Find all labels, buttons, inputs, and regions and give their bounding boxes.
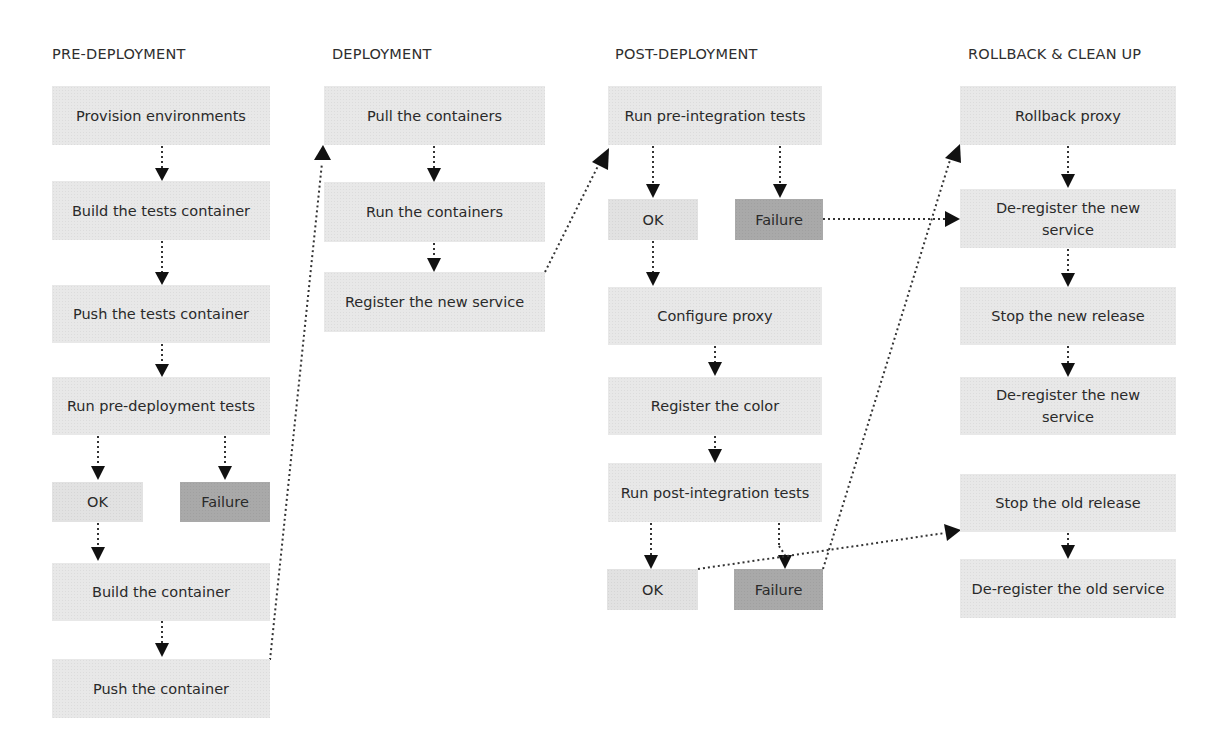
arrow-down-icon — [773, 184, 787, 198]
step-run-pre-integration-tests: Run pre-integration tests — [608, 86, 822, 145]
arrow-down-icon — [708, 449, 722, 463]
result-failure-post-integration: Failure — [734, 569, 823, 610]
arrow-down-icon — [646, 272, 660, 286]
step-deregister-new-service-2: De-register the new service — [960, 377, 1176, 435]
step-run-post-integration-tests: Run post-integration tests — [608, 463, 822, 522]
step-stop-old-release: Stop the old release — [960, 474, 1176, 532]
arrow-down-icon — [1061, 363, 1075, 377]
arrow-down-icon — [1061, 545, 1075, 559]
step-stop-new-release: Stop the new release — [960, 287, 1176, 345]
arrow-down-icon — [646, 184, 660, 198]
step-rollback-proxy: Rollback proxy — [960, 86, 1176, 145]
arrow-down-icon — [155, 272, 169, 285]
result-ok-pre-integration: OK — [608, 199, 698, 240]
arrow-down-icon — [155, 168, 169, 181]
arrow-right-icon — [944, 524, 961, 541]
arrow-up-icon — [314, 145, 331, 160]
arrow-down-icon — [91, 547, 105, 561]
arrow-down-icon — [155, 643, 169, 657]
arrow-down-icon — [1061, 273, 1075, 287]
step-deregister-old-service: De-register the old service — [960, 559, 1176, 618]
arrow-down-icon — [427, 168, 441, 182]
step-run-containers: Run the containers — [324, 182, 545, 242]
step-build-tests-container: Build the tests container — [52, 181, 270, 240]
result-ok: OK — [52, 482, 143, 522]
arrow-down-icon — [1061, 174, 1075, 188]
step-configure-proxy: Configure proxy — [608, 287, 822, 345]
arrow-down-icon — [644, 555, 658, 569]
arrow-up-icon — [945, 144, 961, 163]
arrow-down-icon — [778, 555, 792, 569]
arrow-down-icon — [708, 362, 722, 376]
step-register-new-service: Register the new service — [324, 272, 545, 332]
arrow-right-icon — [945, 211, 960, 227]
step-push-tests-container: Push the tests container — [52, 285, 270, 343]
result-failure: Failure — [180, 482, 270, 522]
arrow-down-icon — [91, 466, 105, 480]
step-provision-environments: Provision environments — [52, 86, 270, 145]
arrow-down-icon — [218, 466, 232, 480]
step-deregister-new-service-1: De-register the new service — [960, 189, 1176, 248]
arrow-down-icon — [427, 258, 441, 272]
result-ok-post-integration: OK — [607, 569, 698, 610]
step-register-color: Register the color — [608, 377, 822, 435]
arrow-down-icon — [155, 364, 169, 377]
step-run-pre-deployment-tests: Run pre-deployment tests — [52, 377, 270, 435]
step-build-container: Build the container — [52, 563, 270, 621]
result-failure-pre-integration: Failure — [735, 199, 823, 240]
arrow-up-icon — [592, 148, 609, 170]
step-pull-containers: Pull the containers — [324, 86, 545, 145]
step-push-container: Push the container — [52, 659, 270, 718]
